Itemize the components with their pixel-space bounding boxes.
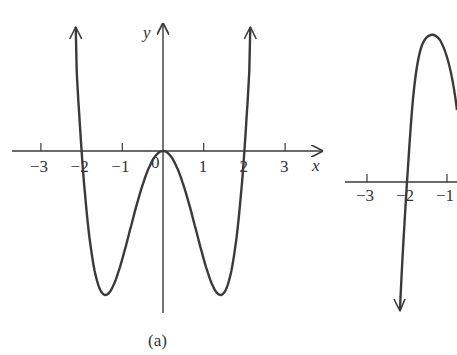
x-tick-label: −1 <box>436 186 454 205</box>
panel-a: −3−2−10123 x y (a) <box>12 23 322 350</box>
x-tick-labels: −3−2−10123 <box>30 153 289 176</box>
x-tick-label: −3 <box>30 157 48 176</box>
y-axis-label: y <box>141 23 151 42</box>
x-tick-label: −3 <box>356 186 374 205</box>
panel-label-a: (a) <box>148 331 167 350</box>
x-tick-label: 1 <box>199 157 208 176</box>
x-axis-label: x <box>311 156 320 175</box>
x-tick-label: −1 <box>111 157 129 176</box>
panel-b: −3−2−1 <box>345 35 457 311</box>
x-tick-label: −2 <box>71 157 89 176</box>
curve-b <box>400 35 457 310</box>
figure: −3−2−10123 x y (a) −3−2−1 <box>0 0 457 355</box>
x-tick-label: 3 <box>280 157 289 176</box>
